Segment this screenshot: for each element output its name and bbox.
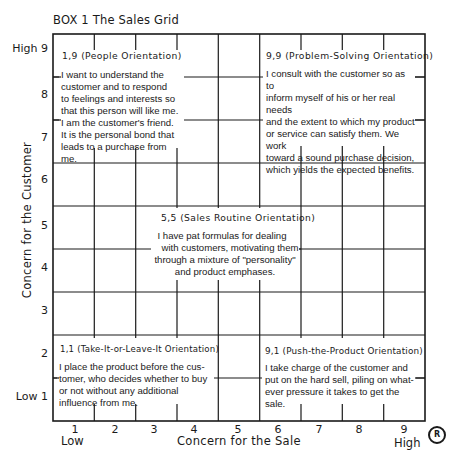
- x-tick-2: 2: [105, 423, 125, 436]
- text-line: put on the hard sell, piling on what-: [265, 374, 416, 386]
- text-line: ever pressure it takes to get the: [265, 386, 416, 398]
- y-tick-2: 2: [2, 347, 48, 360]
- y-axis-title: Concern for the Customer: [20, 142, 34, 298]
- text-line: It is the personal bond that: [61, 129, 184, 141]
- orientation-heading: 1,9 (People Orientation): [62, 50, 184, 61]
- text-line: I am the customer's friend.: [61, 117, 184, 129]
- text-line: I take charge of the customer and: [265, 362, 416, 374]
- orientation-description: I want to understand the customer and to…: [61, 69, 184, 165]
- text-line: which yields the expected benefits.: [266, 164, 415, 176]
- text-line: with customers, motivating them: [161, 242, 299, 254]
- orientation-heading: 9,9 (Problem-Solving Orientation): [266, 50, 415, 61]
- orientation-description: I have pat formulas for dealing with cus…: [151, 230, 299, 278]
- text-line: I place the product before the cus-: [59, 361, 214, 373]
- registered-trademark-icon: R: [428, 426, 446, 444]
- text-line: I consult with the customer so as to: [266, 68, 415, 92]
- orientation-heading: 9,1 (Push-the-Product Orientation): [265, 346, 416, 356]
- text-line: inform myself of his or her real needs: [266, 92, 415, 116]
- x-tick-9: 9: [394, 423, 414, 436]
- text-line: and product emphases.: [151, 266, 299, 278]
- orientation-1-9-people: 1,9 (People Orientation) I want to under…: [59, 50, 184, 148]
- text-line: through a mixture of "personality": [151, 254, 299, 266]
- text-line: that this person will like me.: [61, 105, 184, 117]
- x-axis-low-label: Low: [61, 434, 84, 448]
- orientation-5-5-sales-routine: 5,5 (Sales Routine Orientation) I have p…: [151, 208, 299, 280]
- text-line: I have pat formulas for dealing: [145, 230, 299, 242]
- text-line: tomer, who decides whether to buy: [59, 373, 214, 385]
- x-axis-title: Concern for the Sale: [177, 434, 301, 448]
- orientation-1-1-take-it-or-leave-it: 1,1 (Take-It-or-Leave-It Orientation) I …: [57, 338, 214, 404]
- text-line: customer and to respond: [61, 81, 184, 93]
- orientation-description: I place the product before the cus- tome…: [59, 361, 214, 409]
- text-line: influence from me.: [59, 397, 214, 409]
- text-line: and the extent to which my product: [266, 116, 415, 128]
- x-tick-8: 8: [349, 423, 369, 436]
- text-line: or service can satisfy them. We work: [266, 128, 415, 152]
- y-tick-1: Low 1: [2, 390, 48, 403]
- text-line: to feelings and interests so: [61, 93, 184, 105]
- orientation-heading: 1,1 (Take-It-or-Leave-It Orientation): [60, 344, 214, 354]
- text-line: toward a sound purchase decision,: [266, 152, 415, 164]
- text-line: sale.: [265, 398, 416, 410]
- orientation-heading: 5,5 (Sales Routine Orientation): [161, 212, 299, 223]
- y-tick-3: 3: [2, 304, 48, 317]
- orientation-description: I take charge of the customer and put on…: [265, 362, 416, 410]
- orientation-9-1-push-the-product: 9,1 (Push-the-Product Orientation) I tak…: [262, 338, 416, 404]
- y-tick-9: High 9: [2, 42, 48, 55]
- x-tick-3: 3: [144, 423, 164, 436]
- text-line: leads to a purchase from me.: [61, 141, 184, 165]
- x-tick-7: 7: [309, 423, 329, 436]
- x-axis-high-label: High: [394, 436, 420, 450]
- text-line: or not without any additional: [59, 385, 214, 397]
- text-line: I want to understand the: [61, 69, 184, 81]
- y-tick-8: 8: [2, 88, 48, 101]
- orientation-description: I consult with the customer so as to inf…: [266, 68, 415, 176]
- orientation-9-9-problem-solving: 9,9 (Problem-Solving Orientation) I cons…: [263, 50, 415, 146]
